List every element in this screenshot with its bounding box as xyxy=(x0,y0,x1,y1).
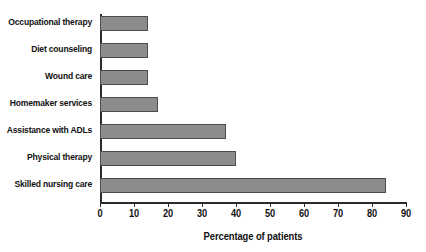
bar-wound-care xyxy=(100,70,148,85)
x-tick-80 xyxy=(372,202,373,207)
category-axis-labels: Occupational therapy Diet counseling Wou… xyxy=(0,14,96,202)
x-tick-label-90: 90 xyxy=(392,208,420,219)
x-tick-label-50: 50 xyxy=(256,208,284,219)
bar-physical-therapy xyxy=(100,151,236,166)
bar-homemaker-services xyxy=(100,97,158,112)
x-tick-label-10: 10 xyxy=(120,208,148,219)
x-tick-60 xyxy=(304,202,305,207)
category-label-homemaker-services: Homemaker services xyxy=(5,98,92,108)
category-label-diet-counseling: Diet counseling xyxy=(5,44,92,54)
x-tick-label-40: 40 xyxy=(222,208,250,219)
bar-diet-counseling xyxy=(100,43,148,58)
x-tick-label-80: 80 xyxy=(358,208,386,219)
x-axis-title: Percentage of patients xyxy=(109,231,397,242)
x-tick-10 xyxy=(134,202,135,207)
x-tick-0 xyxy=(100,202,101,207)
x-tick-90 xyxy=(406,202,407,207)
x-tick-20 xyxy=(168,202,169,207)
plot-area: 0102030405060708090 xyxy=(100,14,406,202)
x-tick-30 xyxy=(202,202,203,207)
category-label-physical-therapy: Physical therapy xyxy=(5,152,92,162)
bar-skilled-nursing-care xyxy=(100,178,386,193)
x-tick-70 xyxy=(338,202,339,207)
category-label-occupational-therapy: Occupational therapy xyxy=(5,17,92,27)
x-tick-label-60: 60 xyxy=(290,208,318,219)
bar-occupational-therapy xyxy=(100,16,148,31)
bar-chart: Occupational therapy Diet counseling Wou… xyxy=(0,0,426,252)
x-tick-label-20: 20 xyxy=(154,208,182,219)
x-tick-label-0: 0 xyxy=(86,208,114,219)
x-tick-label-30: 30 xyxy=(188,208,216,219)
x-axis-line xyxy=(100,202,406,204)
x-tick-50 xyxy=(270,202,271,207)
category-label-skilled-nursing-care: Skilled nursing care xyxy=(5,179,92,189)
category-label-wound-care: Wound care xyxy=(5,71,92,81)
x-tick-label-70: 70 xyxy=(324,208,352,219)
x-tick-40 xyxy=(236,202,237,207)
bar-assistance-with-adls xyxy=(100,124,226,139)
category-label-assistance-with-adls: Assistance with ADLs xyxy=(5,125,92,135)
